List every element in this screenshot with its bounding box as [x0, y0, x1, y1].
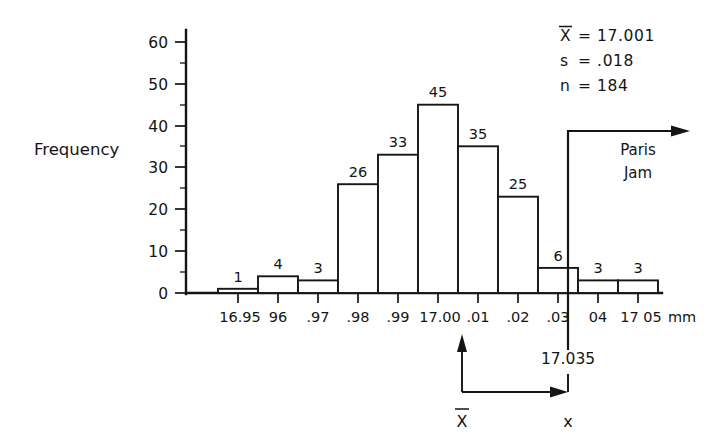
x-tick-label-0: 16.95 [219, 309, 261, 325]
stat-value-xbar: = 17.001 [578, 27, 655, 45]
y-axis: 0 10 20 30 40 50 60 Frequency [34, 30, 186, 303]
bar-value-2: 3 [313, 260, 322, 276]
bar-1 [258, 276, 298, 293]
bar-4 [378, 155, 418, 293]
bar-value-7: 25 [509, 176, 527, 192]
tolerance-span-annotation: X x [455, 334, 573, 431]
y-tick-label-40: 40 [148, 118, 168, 136]
stat-symbol-n: n [560, 77, 570, 95]
x-tick-label-5: 17.00 [419, 309, 461, 325]
bar-value-4: 33 [389, 134, 407, 150]
bar-5 [418, 105, 458, 293]
bar-2 [298, 280, 338, 293]
x-tick-label-10: 17 05 [620, 309, 662, 325]
bar-0 [218, 289, 258, 293]
spec-marker-label: x [563, 412, 572, 431]
histogram-chart: 0 10 20 30 40 50 60 Frequency 16.95 [0, 0, 726, 447]
paris-jam-label-line1: Paris [620, 141, 656, 159]
x-tick-label-9: 04 [589, 309, 607, 325]
bar-10 [618, 280, 658, 293]
bar-value-3: 26 [349, 164, 367, 180]
bar-value-10: 3 [633, 260, 642, 276]
x-tick-label-8: .03 [546, 309, 569, 325]
statistics-annotation: X = 17.001 s = .018 n = 184 [559, 27, 655, 96]
bar-value-9: 3 [593, 260, 602, 276]
x-tick-label-3: .98 [346, 309, 369, 325]
bar-3 [338, 184, 378, 293]
y-tick-label-60: 60 [148, 34, 168, 52]
bar-9 [578, 280, 618, 293]
span-arrowhead-icon [550, 387, 568, 398]
stat-symbol-s: s [560, 52, 569, 70]
paris-jam-callout: Paris Jam [568, 126, 690, 183]
y-tick-label-10: 10 [148, 243, 168, 261]
x-tick-label-2: .97 [306, 309, 329, 325]
x-tick-label-4: .99 [386, 309, 409, 325]
x-tick-label-6: .01 [466, 309, 489, 325]
x-axis: 16.95 96 .97 .98 .99 17.00 .01 .02 .03 0… [186, 293, 696, 325]
bar-series [218, 105, 658, 293]
bar-value-5: 45 [429, 84, 447, 100]
bar-value-0: 1 [233, 269, 242, 285]
x-tick-label-1: 96 [269, 309, 287, 325]
paris-jam-arrowhead-icon [671, 126, 690, 137]
x-axis-unit-label: mm [668, 309, 696, 325]
stat-symbol-xbar: X [560, 27, 571, 45]
stat-value-n: = 184 [578, 77, 629, 95]
x-tick-label-7: .02 [506, 309, 529, 325]
histogram-figure: 0 10 20 30 40 50 60 Frequency 16.95 [0, 0, 726, 447]
paris-jam-label-line2: Jam [623, 164, 652, 182]
stat-value-s: = .018 [578, 52, 634, 70]
cutoff-value-label: 17.035 [541, 350, 595, 368]
bar-7 [498, 197, 538, 293]
mean-arrowhead-icon [457, 334, 467, 352]
bar-8 [538, 268, 578, 293]
bar-6 [458, 146, 498, 293]
mean-marker-label: X [457, 412, 468, 431]
bar-value-6: 35 [469, 126, 487, 142]
bar-value-1: 4 [273, 256, 282, 272]
y-tick-label-50: 50 [148, 76, 168, 94]
y-tick-label-20: 20 [148, 201, 168, 219]
bar-value-8: 6 [553, 248, 562, 264]
y-tick-label-30: 30 [148, 159, 168, 177]
y-axis-label: Frequency [34, 140, 119, 159]
y-tick-label-0: 0 [158, 285, 168, 303]
